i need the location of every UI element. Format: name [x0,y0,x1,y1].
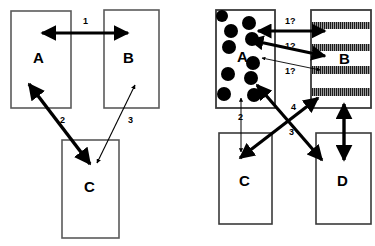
band-stripe [312,66,370,74]
figure-canvas: A B C A B C D 1 2 3 1? 1? 1? 2 3 4 [0,0,375,246]
particle-dot [224,24,238,38]
particle-dot [221,67,235,81]
particle-dot [217,87,231,101]
box-label-d-right: D [337,173,348,188]
edge-label-2-left: 2 [60,116,65,125]
diagram-svg [0,0,375,246]
box-label-a-right: A [237,49,248,64]
edge-label-1q-a: 1? [285,17,296,26]
box-label-c-left: C [84,179,95,194]
edge-label-3-left: 3 [128,116,133,125]
edge-label-1q-c: 1? [285,67,296,76]
edge-label-4-right: 4 [291,103,296,112]
box-label-c-right: C [239,173,250,188]
box-label-b-left: B [123,50,134,65]
left-panel [11,10,159,238]
particle-dot [244,71,258,85]
particle-dot [247,88,261,102]
edge-label-1q-b: 1? [285,42,296,51]
edge-label-2-right: 2 [238,113,243,122]
edge-label-3-right: 3 [289,128,294,137]
band-stripe [312,22,370,29]
box-label-a-left: A [33,50,44,65]
particle-dot [222,40,236,54]
particle-dot [216,10,228,22]
particle-dot [246,56,260,70]
band-stripe [312,88,370,96]
edge-label-1-left: 1 [83,17,88,26]
box-label-b-right: B [339,51,350,66]
particle-dot [242,16,256,30]
